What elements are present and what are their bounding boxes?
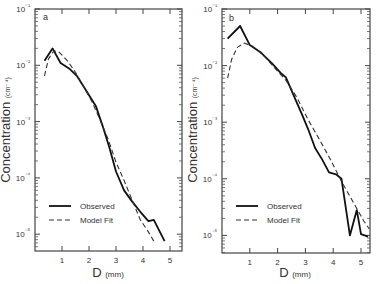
y-tick-label: 10⁻¹ (16, 3, 30, 14)
x-tick-label: 1 (248, 258, 253, 267)
panel-label: b (229, 13, 234, 23)
legend-label-model-fit: Model Fit (80, 216, 114, 225)
y-tick-label: 10⁻² (203, 60, 217, 71)
panel-b: 10⁻¹10⁻²10⁻³10⁻⁴10⁻⁵12345bD (mm)Concentr… (185, 3, 370, 280)
x-axis-label: D (mm) (279, 265, 311, 280)
series-model-fit (45, 51, 154, 241)
x-tick-label: 4 (331, 258, 336, 267)
y-tick-label: 10⁻¹ (203, 3, 217, 14)
y-axis-label: Concentration (cm⁻⁴) (185, 77, 200, 183)
y-tick-label: 10⁻³ (16, 116, 30, 127)
panel-a: 10⁻¹10⁻²10⁻³10⁻⁴10⁻⁵12345aD (mm)Concentr… (0, 3, 182, 280)
y-tick-label: 10⁻⁵ (203, 229, 217, 240)
legend-label-observed: Observed (267, 202, 302, 211)
plot-frame (35, 9, 182, 251)
legend: ObservedModel Fit (49, 202, 115, 225)
x-tick-label: 1 (60, 256, 65, 265)
legend: ObservedModel Fit (236, 202, 302, 225)
figure: 10⁻¹10⁻²10⁻³10⁻⁴10⁻⁵12345aD (mm)Concentr… (0, 0, 378, 284)
legend-label-observed: Observed (80, 202, 115, 211)
legend-label-model-fit: Model Fit (267, 216, 301, 225)
x-tick-label: 3 (303, 258, 308, 267)
x-tick-label: 5 (168, 256, 173, 265)
y-tick-label: 10⁻⁴ (16, 172, 31, 183)
y-tick-label: 10⁻³ (203, 116, 217, 127)
x-tick-label: 4 (141, 256, 146, 265)
y-tick-label: 10⁻⁵ (16, 228, 30, 239)
y-axis-label: Concentration (cm⁻⁴) (0, 77, 13, 183)
x-tick-label: 3 (114, 256, 119, 265)
panel-label: a (43, 12, 48, 22)
y-tick-label: 10⁻² (16, 59, 30, 70)
x-axis-label: D (mm) (92, 265, 124, 280)
y-tick-label: 10⁻⁴ (203, 173, 218, 184)
series-observed (45, 48, 165, 241)
x-tick-label: 2 (87, 256, 92, 265)
x-tick-label: 5 (359, 258, 364, 267)
